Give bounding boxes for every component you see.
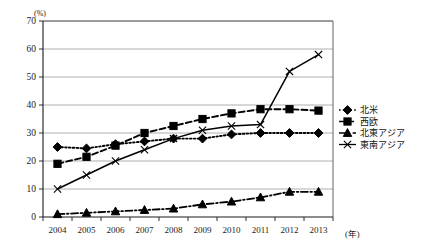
x-tick-label: 2009 [194, 225, 213, 235]
data-point-marker [228, 110, 235, 117]
data-point-marker [227, 130, 236, 139]
data-point-marker [285, 129, 294, 138]
x-tick-label: 2006 [107, 225, 126, 235]
data-point-marker [286, 106, 293, 113]
y-tick-label: 40 [27, 100, 37, 110]
y-tick-label: 10 [27, 184, 37, 194]
legend-item-3[interactable]: 北東アジア [339, 127, 405, 138]
data-point-marker [315, 51, 322, 58]
legend-label: 東南アジア [360, 139, 405, 150]
data-point-marker [53, 143, 62, 152]
x-tick-label: 2008 [165, 225, 184, 235]
x-tick-label: 2010 [223, 225, 242, 235]
x-axis-ticks: 2004200520062007200820092010201120122013 [43, 217, 333, 235]
series-2 [54, 106, 322, 168]
legend-item-4[interactable]: 東南アジア [339, 139, 405, 150]
data-point-marker [198, 134, 207, 143]
data-point-marker [344, 118, 351, 125]
data-point-marker [83, 171, 90, 178]
chart-legend: 北米西欧北東アジア東南アジア [339, 104, 405, 150]
data-point-marker [314, 129, 323, 138]
data-point-marker [83, 153, 90, 160]
series-line [58, 192, 319, 214]
legend-label: 北東アジア [360, 127, 405, 138]
y-tick-label: 60 [27, 44, 37, 54]
series-3 [53, 187, 322, 217]
x-tick-label: 2011 [252, 225, 270, 235]
legend-label: 西欧 [360, 116, 378, 127]
data-point-marker [199, 115, 206, 122]
y-tick-label: 20 [27, 156, 37, 166]
legend-item-1[interactable]: 北米 [339, 104, 378, 115]
data-point-marker [54, 160, 61, 167]
y-axis-unit-label: (%) [34, 9, 46, 18]
x-axis-title: (年) [345, 229, 360, 239]
x-tick-label: 2005 [78, 225, 97, 235]
data-point-marker [141, 146, 148, 153]
data-point-marker [82, 144, 91, 153]
y-axis-ticks: 010203040506070 [27, 16, 44, 222]
data-point-marker [257, 106, 264, 113]
data-point-marker [140, 137, 149, 146]
data-point-marker [198, 200, 206, 208]
data-point-marker [256, 129, 265, 138]
x-tick-label: 2013 [310, 225, 329, 235]
chart-svg: 010203040506070 200420052006200720082009… [0, 0, 422, 248]
series-1 [53, 129, 323, 153]
gridlines [43, 21, 333, 189]
y-tick-label: 50 [27, 72, 37, 82]
x-tick-label: 2007 [136, 225, 155, 235]
data-point-marker [343, 106, 352, 115]
data-point-marker [112, 142, 119, 149]
y-tick-label: 30 [27, 128, 37, 138]
line-chart: 010203040506070 200420052006200720082009… [0, 0, 422, 248]
data-series [53, 51, 323, 218]
y-tick-label: 0 [31, 212, 36, 222]
legend-item-2[interactable]: 西欧 [339, 116, 378, 127]
legend-label: 北米 [360, 104, 378, 115]
data-point-marker [170, 122, 177, 129]
series-line [58, 133, 319, 148]
x-tick-label: 2004 [49, 225, 68, 235]
data-point-marker [141, 129, 148, 136]
data-point-marker [286, 68, 293, 75]
x-tick-label: 2012 [281, 225, 299, 235]
series-line [58, 109, 319, 164]
data-point-marker [315, 107, 322, 114]
